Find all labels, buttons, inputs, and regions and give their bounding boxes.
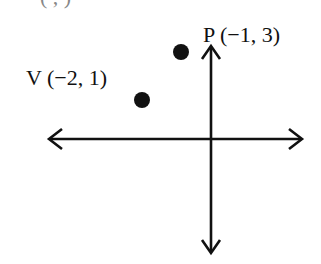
point-v-dot	[134, 92, 150, 108]
point-p-label: P (−1, 3)	[203, 24, 280, 46]
vertical-axis	[202, 46, 220, 253]
coordinate-diagram: ( , ) P (−1, 3) V (−2, 1)	[0, 0, 321, 264]
point-v-label: V (−2, 1)	[26, 67, 107, 89]
horizontal-axis	[49, 129, 302, 149]
point-p-dot	[173, 44, 189, 60]
